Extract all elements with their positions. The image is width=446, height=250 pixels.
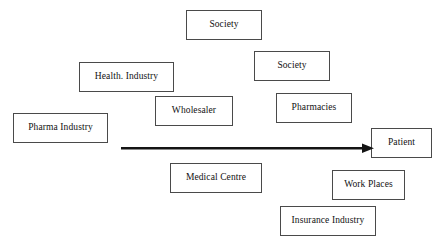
node-society-second[interactable]: Society (254, 51, 330, 81)
node-patient[interactable]: Patient (371, 128, 432, 158)
node-society-top[interactable]: Society (186, 10, 262, 40)
node-label-work-places: Work Places (342, 180, 395, 190)
node-label-health-industry: Health. Industry (93, 72, 160, 82)
node-label-insurance-industry: Insurance Industry (290, 216, 367, 226)
node-pharma-industry[interactable]: Pharma Industry (13, 113, 108, 143)
node-work-places[interactable]: Work Places (332, 170, 405, 200)
node-label-wholesaler: Wholesaler (170, 106, 218, 116)
node-insurance-industry[interactable]: Insurance Industry (280, 206, 376, 236)
node-label-pharma-industry: Pharma Industry (26, 123, 95, 133)
node-wholesaler[interactable]: Wholesaler (155, 96, 233, 126)
node-label-patient: Patient (386, 138, 417, 148)
node-label-medical-centre: Medical Centre (184, 173, 248, 183)
node-pharmacies[interactable]: Pharmacies (276, 93, 352, 123)
node-label-society-top: Society (207, 20, 240, 30)
node-label-pharmacies: Pharmacies (290, 103, 339, 113)
node-label-society-second: Society (275, 61, 308, 71)
flow-arrow-icon (118, 139, 374, 157)
node-health-industry[interactable]: Health. Industry (79, 62, 174, 92)
node-medical-centre[interactable]: Medical Centre (170, 163, 262, 193)
flow-diagram-canvas: SocietySocietyHealth. IndustryWholesaler… (0, 0, 446, 250)
